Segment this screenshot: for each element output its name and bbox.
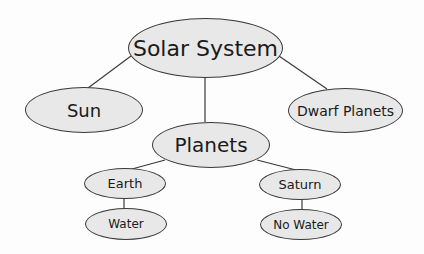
- node-label: Earth: [108, 176, 143, 191]
- node-water: Water: [85, 208, 167, 240]
- node-earth: Earth: [84, 168, 166, 199]
- node-label: Saturn: [279, 177, 322, 192]
- node-solar-system: Solar System: [128, 18, 283, 78]
- node-label: No Water: [273, 218, 329, 232]
- concept-map: Solar System Sun Dwarf Planets Planets E…: [0, 0, 424, 254]
- node-label: Solar System: [133, 36, 278, 61]
- edge-root-dwarf: [279, 56, 327, 89]
- node-label: Sun: [67, 100, 101, 121]
- node-label: Water: [108, 217, 143, 231]
- node-no-water: No Water: [260, 209, 342, 240]
- node-saturn: Saturn: [259, 169, 341, 200]
- node-label: Planets: [174, 133, 247, 157]
- node-planets: Planets: [152, 122, 270, 168]
- node-dwarf-planets: Dwarf Planets: [288, 88, 403, 133]
- edge-planets-earth: [132, 160, 165, 169]
- node-label: Dwarf Planets: [297, 103, 394, 119]
- edge-root-sun: [88, 56, 131, 88]
- node-sun: Sun: [25, 87, 143, 133]
